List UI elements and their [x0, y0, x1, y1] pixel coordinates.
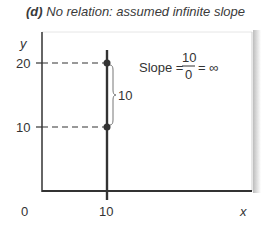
plot-area — [0, 0, 271, 229]
x-axis-label: x — [240, 204, 247, 219]
slope-result: = ∞ — [198, 60, 218, 75]
y-tick-20: 20 — [16, 56, 30, 71]
origin-label: 0 — [21, 204, 28, 219]
slope-numerator: 10 — [182, 50, 196, 65]
slope-denominator: 0 — [185, 67, 192, 82]
y-axis-label: y — [20, 36, 27, 51]
brace-label: 10 — [118, 88, 132, 103]
x-tick-10: 10 — [99, 204, 113, 219]
frame-shadow — [253, 30, 261, 193]
point-10-20 — [104, 60, 111, 67]
slope-label: Slope = — [139, 60, 183, 75]
point-10-10 — [104, 124, 111, 131]
y-tick-10: 10 — [16, 120, 30, 135]
brace — [110, 65, 116, 125]
